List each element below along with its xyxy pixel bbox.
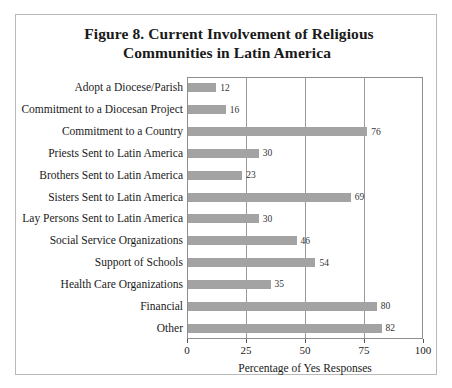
category-label: Financial: [0, 300, 183, 313]
bar-wrap: 80: [188, 295, 422, 317]
bar-row: Brothers Sent to Latin America23: [16, 164, 436, 186]
bar: [188, 105, 226, 114]
x-tick-mark: [246, 339, 247, 343]
bar-value-label: 30: [263, 214, 273, 224]
category-label: Commitment to a Country: [0, 125, 183, 138]
bar-wrap: 12: [188, 77, 422, 99]
bar: [188, 149, 259, 158]
x-axis-title: Percentage of Yes Responses: [187, 361, 423, 375]
bar: [188, 193, 351, 202]
category-label: Priests Sent to Latin America: [0, 147, 183, 160]
category-label: Other: [0, 322, 183, 335]
bar-value-label: 82: [386, 323, 396, 333]
bar-row: Lay Persons Sent to Latin America30: [16, 208, 436, 230]
bar-value-label: 30: [263, 148, 273, 158]
bar-wrap: 82: [188, 317, 422, 339]
category-label: Adopt a Diocese/Parish: [0, 81, 183, 94]
x-tick-label: 25: [241, 344, 252, 357]
category-label: Sisters Sent to Latin America: [0, 191, 183, 204]
bar-row: Commitment to a Diocesan Project16: [16, 99, 436, 121]
bar: [188, 214, 259, 223]
bar: [188, 236, 297, 245]
bar-wrap: 23: [188, 164, 422, 186]
bar-value-label: 35: [275, 279, 285, 289]
bar-value-label: 12: [220, 83, 230, 93]
x-tick-mark: [305, 339, 306, 343]
bar-value-label: 80: [381, 301, 391, 311]
x-axis: 0255075100 Percentage of Yes Responses: [187, 339, 423, 379]
bar-wrap: 35: [188, 274, 422, 296]
bar-wrap: 30: [188, 143, 422, 165]
bar: [188, 127, 367, 136]
figure-container: Figure 8. Current Involvement of Religio…: [15, 14, 437, 375]
category-label: Health Care Organizations: [0, 278, 183, 291]
figure-title: Figure 8. Current Involvement of Religio…: [28, 24, 426, 62]
bar-row: Priests Sent to Latin America30: [16, 143, 436, 165]
bar-row: Support of Schools54: [16, 252, 436, 274]
bar-row: Adopt a Diocese/Parish12: [16, 77, 436, 99]
bar: [188, 302, 377, 311]
bar-row: Other82: [16, 317, 436, 339]
x-tick-label: 100: [415, 344, 432, 357]
bar-row: Social Service Organizations46: [16, 230, 436, 252]
bar-wrap: 76: [188, 121, 422, 143]
figure-title-line-1: Figure 8. Current Involvement of Religio…: [28, 24, 426, 43]
bar: [188, 171, 242, 180]
category-label: Support of Schools: [0, 256, 183, 269]
bar-row: Commitment to a Country76: [16, 121, 436, 143]
category-label: Brothers Sent to Latin America: [0, 169, 183, 182]
bar-row: Health Care Organizations35: [16, 274, 436, 296]
bar-value-label: 76: [371, 127, 381, 137]
bar-row: Sisters Sent to Latin America69: [16, 186, 436, 208]
x-tick-label: 0: [184, 344, 190, 357]
bar-chart: Adopt a Diocese/Parish12Commitment to a …: [16, 77, 436, 374]
category-label: Social Service Organizations: [0, 234, 183, 247]
x-tick-label: 50: [300, 344, 311, 357]
x-tick-mark: [187, 339, 188, 343]
bar-value-label: 54: [319, 258, 329, 268]
bar-value-label: 46: [301, 236, 311, 246]
bar: [188, 280, 271, 289]
bar-wrap: 16: [188, 99, 422, 121]
bar: [188, 258, 315, 267]
bar-value-label: 69: [355, 192, 365, 202]
bar-wrap: 69: [188, 186, 422, 208]
x-tick-label: 75: [359, 344, 370, 357]
bar: [188, 324, 382, 333]
bar-value-label: 23: [246, 170, 256, 180]
bar-value-label: 16: [230, 105, 240, 115]
bar-wrap: 30: [188, 208, 422, 230]
bar-wrap: 54: [188, 252, 422, 274]
x-tick-mark: [364, 339, 365, 343]
bar-rows: Adopt a Diocese/Parish12Commitment to a …: [16, 77, 436, 374]
x-tick-mark: [423, 339, 424, 343]
category-label: Commitment to a Diocesan Project: [0, 103, 183, 116]
bar-row: Financial80: [16, 295, 436, 317]
category-label: Lay Persons Sent to Latin America: [0, 212, 183, 225]
bar: [188, 83, 216, 92]
figure-title-line-2: Communities in Latin America: [28, 43, 426, 62]
bar-wrap: 46: [188, 230, 422, 252]
